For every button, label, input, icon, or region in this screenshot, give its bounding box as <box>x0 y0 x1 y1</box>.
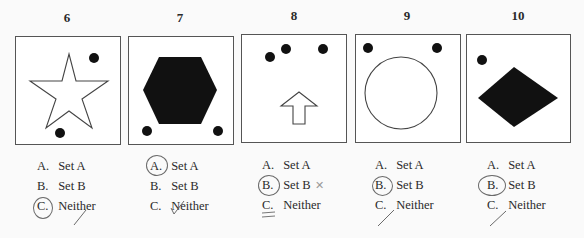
check-mark-icon <box>488 208 508 228</box>
figure-box-hexagon <box>128 36 234 145</box>
figure-box-diamond <box>466 34 571 143</box>
double-underline-mark <box>261 211 277 219</box>
option-b[interactable]: B. Set B <box>37 176 96 196</box>
check-mark-icon <box>72 207 88 227</box>
figure-box-star <box>15 36 121 145</box>
dot-icon <box>477 55 487 65</box>
problem-number: 6 <box>47 10 87 26</box>
circle-outline-icon <box>356 35 462 144</box>
option-a[interactable]: A. Set A <box>262 155 324 175</box>
circled-answer-mark <box>478 175 506 196</box>
hexagon-filled-icon <box>129 37 235 146</box>
dot-icon <box>55 128 65 138</box>
option-a[interactable]: A. Set A <box>375 155 434 175</box>
dot-icon <box>213 126 223 136</box>
problem-number: 10 <box>498 8 538 24</box>
dot-icon <box>432 43 442 53</box>
check-mark-icon <box>170 200 186 216</box>
problem-number: 9 <box>387 8 427 24</box>
circled-answer-mark <box>372 176 393 196</box>
dot-icon <box>89 53 99 63</box>
dot-icon <box>265 52 275 62</box>
dot-icon <box>281 44 291 54</box>
dot-icon <box>318 44 328 54</box>
figure-box-circle <box>355 34 461 143</box>
star-outline-icon <box>16 37 122 146</box>
circled-answer-mark <box>146 155 168 176</box>
option-a[interactable]: A. Set A <box>37 156 96 176</box>
diamond-filled-icon <box>467 35 572 144</box>
option-b[interactable]: B. Set B <box>150 176 209 196</box>
problem-number: 7 <box>160 10 200 26</box>
option-a[interactable]: A. Set A <box>487 155 546 175</box>
dot-icon <box>142 126 152 136</box>
up-arrow-outline-icon <box>242 35 348 144</box>
problem-number: 8 <box>274 8 314 24</box>
circled-answer-mark <box>33 197 53 219</box>
figure-box-arrow <box>241 34 347 143</box>
check-mark-icon <box>376 208 396 228</box>
circled-answer-mark <box>258 175 280 196</box>
x-mark-icon: ✕ <box>315 179 324 191</box>
dot-icon <box>363 43 373 53</box>
